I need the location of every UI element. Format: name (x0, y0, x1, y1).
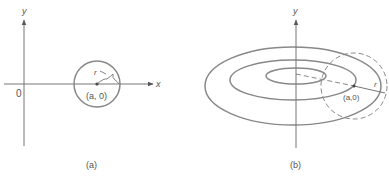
radius-tick-a (100, 71, 106, 74)
origin-label: 0 (16, 88, 22, 99)
caption-a: (a) (86, 160, 97, 170)
panel-b: r (a,0) y (b) (205, 6, 387, 170)
y-axis-label-b: y (292, 6, 298, 16)
diagram-canvas: y x 0 r (a, 0) (a) r (a,0) y (b) (0, 0, 389, 176)
center-point-b (353, 85, 356, 88)
x-axis-label-a: x (155, 79, 161, 89)
panel-a: y x 0 r (a, 0) (a) (4, 6, 161, 170)
center-label-a: (a, 0) (86, 91, 107, 101)
radius-brace-a (97, 74, 119, 84)
y-axis-label-a: y (21, 6, 27, 16)
center-label-b: (a,0) (343, 93, 360, 102)
torus-middle-ellipse (230, 60, 356, 100)
caption-b: (b) (290, 160, 301, 170)
radius-label-b: r (374, 80, 377, 89)
radius-label-a: r (94, 68, 97, 77)
